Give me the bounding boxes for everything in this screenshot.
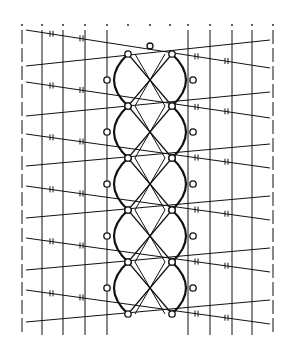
center-braid [114, 54, 186, 314]
lace-diagram [0, 0, 295, 357]
